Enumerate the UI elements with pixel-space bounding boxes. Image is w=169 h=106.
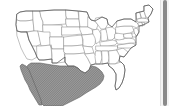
state-south-dakota[interactable]	[66, 19, 80, 27]
state-nebraska[interactable]	[62, 27, 82, 35]
map-viewport[interactable]	[0, 0, 161, 106]
state-florida[interactable]	[109, 62, 125, 90]
map-panel	[0, 0, 169, 106]
state-colorado[interactable]	[50, 37, 64, 49]
state-pennsylvania[interactable]	[116, 26, 134, 34]
state-oregon[interactable]	[16, 20, 34, 32]
state-alabama[interactable]	[102, 51, 109, 64]
state-north-dakota[interactable]	[66, 10, 79, 19]
state-arizona[interactable]	[37, 45, 52, 60]
state-ohio[interactable]	[106, 27, 116, 40]
state-kansas[interactable]	[64, 35, 83, 46]
state-montana[interactable]	[40, 10, 66, 25]
us-map-svg[interactable]	[0, 0, 161, 106]
state-mississippi[interactable]	[95, 51, 102, 64]
vertical-scrollbar-thumb[interactable]	[163, 0, 167, 106]
state-oklahoma[interactable]	[64, 45, 85, 54]
vertical-scrollbar-track[interactable]	[160, 0, 169, 106]
state-arkansas[interactable]	[83, 46, 94, 54]
